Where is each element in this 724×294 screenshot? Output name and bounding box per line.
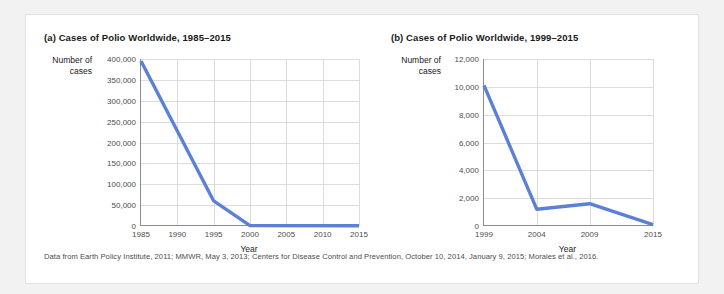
chart-b-title: (b) Cases of Polio Worldwide, 1999–2015 bbox=[391, 32, 578, 43]
x-axis-tick-label: 2000 bbox=[230, 230, 270, 239]
y-axis-tick-label: 150,000 bbox=[84, 159, 136, 168]
y-axis-tick-label: 100,000 bbox=[84, 180, 136, 189]
y-axis-tick-label: 300,000 bbox=[84, 96, 136, 105]
gridline-vertical bbox=[653, 59, 654, 226]
gridline-vertical bbox=[359, 59, 360, 226]
x-axis-tick-label: 2015 bbox=[633, 230, 673, 239]
chart-a-plot-area: 050,000100,000150,000200,000250,000300,0… bbox=[140, 59, 359, 226]
chart-b-plot-area: 02,0004,0006,0008,00010,00012,0001999200… bbox=[483, 59, 653, 226]
y-axis-tick-label: 12,000 bbox=[435, 55, 479, 64]
y-axis-tick-label: 6,000 bbox=[435, 138, 479, 147]
x-axis-tick-label: 2015 bbox=[339, 230, 379, 239]
x-axis-tick-label: 1999 bbox=[464, 230, 504, 239]
x-axis-tick-label: 1995 bbox=[194, 230, 234, 239]
y-axis-tick-label: 400,000 bbox=[84, 55, 136, 64]
y-axis-tick-label: 2,000 bbox=[435, 194, 479, 203]
x-axis-tick-label: 2009 bbox=[570, 230, 610, 239]
x-axis-tick-label: 1985 bbox=[121, 230, 161, 239]
figure-page: (a) Cases of Polio Worldwide, 1985–2015 … bbox=[0, 0, 724, 294]
x-axis-tick-label: 2010 bbox=[303, 230, 343, 239]
chart-b-y-axis-title: Number of cases bbox=[385, 55, 441, 77]
data-series-line bbox=[484, 59, 653, 226]
source-note: Data from Earth Policy Institute, 2011; … bbox=[44, 251, 684, 262]
chart-panel-a: (a) Cases of Polio Worldwide, 1985–2015 … bbox=[26, 15, 385, 243]
y-axis-tick-label: 200,000 bbox=[84, 138, 136, 147]
y-axis-tick-label: 350,000 bbox=[84, 75, 136, 84]
chart-panel-b: (b) Cases of Polio Worldwide, 1999–2015 … bbox=[385, 15, 698, 243]
chart-panels: (a) Cases of Polio Worldwide, 1985–2015 … bbox=[26, 15, 698, 243]
y-axis-tick-label: 4,000 bbox=[435, 166, 479, 175]
data-series-line bbox=[141, 59, 359, 226]
chart-a-plot-wrap: 050,000100,000150,000200,000250,000300,0… bbox=[140, 59, 359, 226]
figure-card: (a) Cases of Polio Worldwide, 1985–2015 … bbox=[25, 14, 699, 284]
chart-b-plot-wrap: 02,0004,0006,0008,00010,00012,0001999200… bbox=[483, 59, 653, 226]
y-axis-tick-label: 50,000 bbox=[84, 201, 136, 210]
chart-b-y-axis-title-line1: Number of bbox=[385, 55, 441, 66]
chart-b-y-axis-title-line2: cases bbox=[385, 66, 441, 77]
x-axis-tick-label: 1990 bbox=[157, 230, 197, 239]
x-axis-tick-label: 2004 bbox=[517, 230, 557, 239]
chart-a-title: (a) Cases of Polio Worldwide, 1985–2015 bbox=[44, 32, 231, 43]
x-axis-tick-label: 2005 bbox=[266, 230, 306, 239]
y-axis-tick-label: 8,000 bbox=[435, 110, 479, 119]
y-axis-tick-label: 250,000 bbox=[84, 117, 136, 126]
y-axis-tick-label: 10,000 bbox=[435, 82, 479, 91]
